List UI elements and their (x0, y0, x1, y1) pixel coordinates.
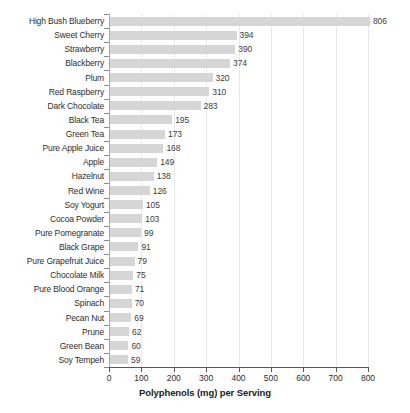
bar-row: 126 (109, 186, 368, 195)
bar (109, 200, 143, 209)
y-axis-tick (104, 70, 109, 71)
bar (109, 45, 235, 54)
bar-row: 374 (109, 59, 368, 68)
bar (109, 144, 163, 153)
bar-value-label: 71 (135, 284, 144, 294)
bar-row: 79 (109, 257, 368, 266)
bar (109, 158, 157, 167)
y-axis-tick (104, 282, 109, 283)
bar-value-label: 149 (160, 157, 174, 167)
x-axis-tick (174, 368, 175, 372)
bar (109, 341, 128, 350)
bar (109, 115, 172, 124)
y-axis-tick (104, 296, 109, 297)
bar-row: 69 (109, 313, 368, 322)
bar-value-label: 105 (146, 200, 160, 210)
bar-row: 99 (109, 228, 368, 237)
y-axis-tick (104, 99, 109, 100)
bar-row: 70 (109, 299, 368, 308)
bar-row: 390 (109, 45, 368, 54)
bar-row: 138 (109, 172, 368, 181)
bar (109, 285, 132, 294)
x-axis-tick (368, 368, 369, 372)
y-axis-category-label: Soy Tempeh (58, 355, 104, 365)
bar (109, 327, 129, 336)
y-axis-category-label: Green Tea (66, 129, 104, 139)
bar-value-label: 59 (131, 355, 140, 365)
plot-area: 8063943903743203102831951731681491381261… (109, 14, 368, 367)
bar-value-label: 103 (145, 214, 159, 224)
bar-row: 195 (109, 115, 368, 124)
y-axis-category-label: Spinach (74, 298, 104, 308)
bar-row: 60 (109, 341, 368, 350)
x-axis-tick (109, 368, 110, 372)
y-axis-category-label: Pure Apple Juice (43, 143, 104, 153)
y-axis-category-label: Pure Blood Orange (34, 284, 104, 294)
y-axis-category-label: High Bush Blueberry (29, 16, 104, 26)
x-axis-tick-label: 700 (329, 373, 343, 383)
y-axis-tick (104, 325, 109, 326)
bar-value-label: 75 (136, 270, 145, 280)
y-axis-category-label: Black Tea (69, 115, 104, 125)
y-axis-tick (104, 339, 109, 340)
y-axis-tick (104, 311, 109, 312)
y-axis-tick (104, 212, 109, 213)
y-axis-category-label: Pure Grapefruit Juice (27, 256, 104, 266)
bar-row: 62 (109, 327, 368, 336)
bar-row: 149 (109, 158, 368, 167)
bar (109, 228, 141, 237)
bar-value-label: 310 (212, 87, 226, 97)
y-axis-category-label: Red Wine (68, 186, 104, 196)
bar-value-label: 168 (166, 143, 180, 153)
y-axis-tick-labels: High Bush BlueberrySweet CherryStrawberr… (0, 14, 104, 367)
x-axis-tick (336, 368, 337, 372)
bar (109, 271, 133, 280)
bar (109, 257, 135, 266)
bar (109, 17, 370, 26)
x-axis-tick-label: 300 (199, 373, 213, 383)
y-axis-tick (104, 28, 109, 29)
bar (109, 186, 150, 195)
y-axis-tick (104, 14, 109, 15)
bar (109, 59, 230, 68)
bar (109, 313, 131, 322)
bar-value-label: 69 (134, 313, 143, 323)
bar-value-label: 60 (131, 341, 140, 351)
bar-row: 71 (109, 285, 368, 294)
x-axis-tick (271, 368, 272, 372)
bar-row: 91 (109, 242, 368, 251)
bar-row: 173 (109, 130, 368, 139)
y-axis-tick (104, 198, 109, 199)
bar-value-label: 283 (204, 101, 218, 111)
y-axis-tick (104, 169, 109, 170)
bar-value-label: 394 (240, 30, 254, 40)
y-axis-tick (104, 127, 109, 128)
y-axis-category-label: Pure Pomegranate (35, 228, 104, 238)
bar-value-label: 91 (141, 242, 150, 252)
x-axis-tick (206, 368, 207, 372)
x-axis-tick-label: 400 (231, 373, 245, 383)
y-axis-tick (104, 141, 109, 142)
y-axis-category-label: Strawberry (64, 44, 104, 54)
gridline (368, 14, 369, 367)
y-axis-tick (104, 353, 109, 354)
x-axis-tick-label: 200 (167, 373, 181, 383)
y-axis-tick (104, 254, 109, 255)
bar (109, 130, 165, 139)
y-axis-tick (104, 155, 109, 156)
y-axis-tick (104, 183, 109, 184)
bar-row: 320 (109, 73, 368, 82)
bar (109, 87, 209, 96)
x-axis-tick-label: 600 (296, 373, 310, 383)
bar-row: 283 (109, 101, 368, 110)
y-axis-category-label: Dark Chocolate (48, 101, 104, 111)
bar-row: 105 (109, 200, 368, 209)
bar (109, 31, 237, 40)
x-axis-tick-label: 0 (107, 373, 112, 383)
bar-row: 75 (109, 271, 368, 280)
x-axis-tick-label: 800 (361, 373, 375, 383)
bar-value-label: 195 (175, 115, 189, 125)
polyphenols-bar-chart: 8063943903743203102831951731681491381261… (0, 0, 410, 413)
y-axis-tick (104, 85, 109, 86)
bar-value-label: 62 (132, 327, 141, 337)
